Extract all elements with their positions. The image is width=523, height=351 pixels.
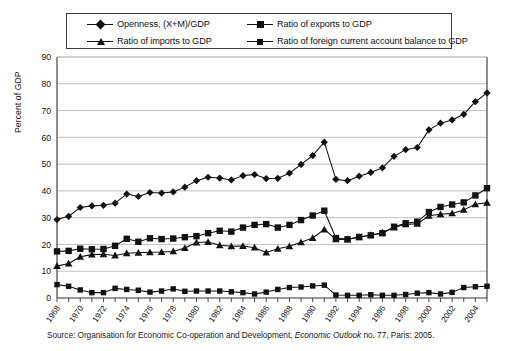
x-tick-label: 1982 (207, 304, 225, 324)
data-point-marker (437, 204, 443, 210)
data-point-marker (240, 224, 246, 230)
data-point-marker (159, 288, 164, 293)
y-tick-label: 0 (46, 293, 51, 303)
legend-label-imports: Ratio of imports to GDP (117, 36, 212, 46)
y-tick-label: 10 (41, 266, 51, 276)
x-tick-label: 1986 (254, 304, 272, 324)
data-point-marker (77, 246, 83, 252)
x-tick-label: 1978 (161, 304, 179, 324)
chart-figure: Openness, (X+M)/GDP Ratio of exports to … (0, 0, 523, 351)
y-tick-label: 30 (41, 213, 51, 223)
data-point-marker (275, 287, 280, 292)
y-tick-label: 50 (41, 159, 51, 169)
square-marker-icon (247, 18, 273, 30)
data-point-marker (297, 239, 305, 246)
data-point-marker (322, 282, 327, 287)
data-point-marker (124, 236, 130, 242)
y-tick-label: 20 (41, 240, 51, 250)
x-tick-label: 1998 (393, 304, 411, 324)
data-point-marker (65, 260, 73, 267)
data-point-marker (309, 212, 315, 218)
data-point-marker (229, 289, 234, 294)
data-point-marker (171, 286, 176, 291)
legend-item-openness: Openness, (X+M)/GDP (87, 15, 210, 33)
legend-label-current-account: Ratio of foreign current account balance… (277, 36, 468, 46)
data-point-marker (181, 184, 188, 191)
data-point-marker (193, 177, 200, 184)
data-point-marker (181, 244, 189, 251)
data-point-marker (473, 284, 478, 289)
data-point-marker (356, 173, 363, 180)
legend-label-exports: Ratio of exports to GDP (277, 19, 372, 29)
series-1 (53, 89, 490, 223)
x-tick-label: 1994 (346, 304, 364, 324)
data-point-marker (194, 288, 199, 293)
data-point-marker (320, 226, 328, 233)
legend-item-imports: Ratio of imports to GDP (87, 32, 212, 50)
data-point-marker (251, 222, 257, 228)
data-point-marker (461, 199, 467, 205)
x-tick-label: 1992 (323, 304, 341, 324)
y-tick-label: 80 (41, 79, 51, 89)
x-tick-label: 1990 (300, 304, 318, 324)
triangle-marker-icon (87, 35, 113, 47)
data-point-marker (147, 235, 153, 241)
data-point-marker (205, 230, 211, 236)
data-point-marker (170, 235, 176, 241)
data-point-marker (228, 228, 234, 234)
x-tick-label: 1980 (184, 304, 202, 324)
data-point-marker (484, 284, 489, 289)
data-point-marker (425, 126, 432, 133)
data-point-marker (449, 116, 456, 123)
data-point-marker (309, 234, 317, 241)
data-point-marker (286, 222, 292, 228)
series-line (57, 93, 487, 220)
data-point-marker (135, 239, 141, 245)
data-point-marker (263, 221, 269, 227)
data-point-marker (414, 144, 421, 151)
data-point-marker (100, 202, 107, 209)
data-point-marker (298, 284, 303, 289)
chart-plot-area: 0102030405060708090196819701972197419761… (0, 0, 523, 351)
data-point-marker (461, 285, 466, 290)
legend-item-exports: Ratio of exports to GDP (247, 15, 372, 33)
data-point-marker (356, 293, 361, 298)
data-point-marker (333, 292, 338, 297)
source-italic: Economic Outlook (295, 330, 362, 340)
series-3 (53, 199, 491, 269)
data-point-marker (484, 185, 490, 191)
small-square-marker-icon (247, 35, 273, 47)
data-point-marker (344, 177, 351, 184)
x-tick-label: 2004 (463, 304, 481, 324)
x-tick-label: 1968 (44, 304, 62, 324)
y-axis-label: Percent of GDP (13, 71, 23, 133)
data-point-marker (136, 288, 141, 293)
diamond-marker-icon (87, 18, 113, 30)
data-point-marker (252, 291, 257, 296)
data-point-marker (274, 175, 281, 182)
x-tick-label: 1976 (137, 304, 155, 324)
data-point-marker (112, 286, 117, 291)
data-point-marker (146, 189, 153, 196)
data-point-marker (204, 174, 211, 181)
data-point-marker (89, 290, 94, 295)
y-tick-label: 90 (41, 52, 51, 62)
x-tick-label: 1988 (277, 304, 295, 324)
y-tick-label: 70 (41, 106, 51, 116)
x-tick-label: 1970 (68, 304, 86, 324)
data-point-marker (88, 202, 95, 209)
data-point-marker (391, 293, 396, 298)
data-point-marker (193, 233, 199, 239)
data-point-marker (415, 290, 420, 295)
data-point-marker (205, 288, 210, 293)
y-tick-label: 40 (41, 186, 51, 196)
data-point-marker (287, 285, 292, 290)
x-tick-label: 1984 (230, 304, 248, 324)
data-point-marker (449, 201, 455, 207)
data-point-marker (263, 289, 268, 294)
data-point-marker (426, 290, 431, 295)
data-point-marker (460, 206, 468, 213)
data-point-marker (228, 176, 235, 183)
series-line (57, 203, 487, 266)
data-point-marker (239, 172, 246, 179)
